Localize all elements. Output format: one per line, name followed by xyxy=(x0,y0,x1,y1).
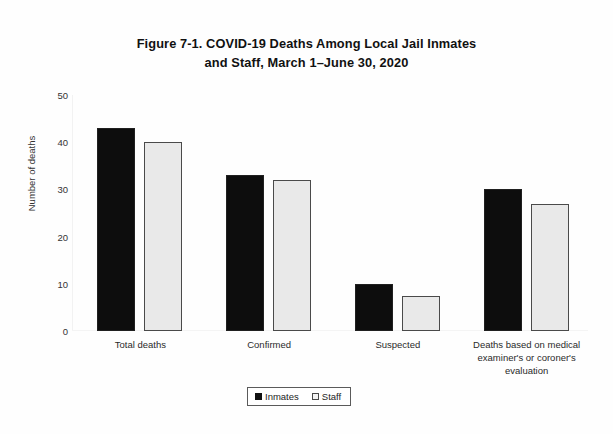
legend-entry-inmates: Inmates xyxy=(255,391,299,402)
y-axis-tick-label: 30 xyxy=(34,184,68,195)
x-axis-category-label-line: evaluation xyxy=(452,364,602,377)
x-axis-category-label-line: Confirmed xyxy=(194,338,344,351)
x-axis-category-label: Deaths based on medicalexaminer's or cor… xyxy=(452,338,602,377)
bar-inmates-2[interactable] xyxy=(355,284,393,331)
bar-group xyxy=(349,95,447,331)
x-axis-category-label-line: Deaths based on medical xyxy=(452,338,602,351)
bar-staff-2[interactable] xyxy=(402,296,440,331)
x-axis-category-label: Confirmed xyxy=(194,338,344,351)
legend-swatch-staff-icon xyxy=(312,393,319,400)
bar-group xyxy=(478,95,576,331)
plot-area xyxy=(72,95,587,331)
legend-label-staff: Staff xyxy=(322,391,341,402)
y-axis-tick-label: 40 xyxy=(34,137,68,148)
bar-staff-3[interactable] xyxy=(531,204,569,331)
bar-inmates-1[interactable] xyxy=(226,175,264,331)
y-axis-tick-label: 50 xyxy=(34,90,68,101)
bar-group xyxy=(91,95,189,331)
x-axis-category-label: Suspected xyxy=(323,338,473,351)
chart-title-line-2: and Staff, March 1–June 30, 2020 xyxy=(0,53,613,72)
bar-group xyxy=(220,95,318,331)
legend-label-inmates: Inmates xyxy=(265,391,299,402)
y-axis-tick-label: 20 xyxy=(34,231,68,242)
figure-page: Figure 7-1. COVID-19 Deaths Among Local … xyxy=(0,0,613,434)
chart-title: Figure 7-1. COVID-19 Deaths Among Local … xyxy=(0,34,613,72)
legend-swatch-inmates-icon xyxy=(255,393,262,400)
y-axis-tick-label: 0 xyxy=(34,326,68,337)
chart-legend: Inmates Staff xyxy=(247,387,351,406)
y-axis-tick-label: 10 xyxy=(34,278,68,289)
y-axis-title: Number of deaths xyxy=(26,119,37,229)
x-axis-category-label: Total deaths xyxy=(65,338,215,351)
bar-staff-1[interactable] xyxy=(273,180,311,331)
bar-inmates-3[interactable] xyxy=(484,189,522,331)
bar-staff-0[interactable] xyxy=(144,142,182,331)
legend-entry-staff: Staff xyxy=(312,391,341,402)
x-axis-category-label-line: examiner's or coroner's xyxy=(452,351,602,364)
bar-inmates-0[interactable] xyxy=(97,128,135,331)
chart-title-line-1: Figure 7-1. COVID-19 Deaths Among Local … xyxy=(0,34,613,53)
x-axis-category-label-line: Suspected xyxy=(323,338,473,351)
x-axis-category-label-line: Total deaths xyxy=(65,338,215,351)
